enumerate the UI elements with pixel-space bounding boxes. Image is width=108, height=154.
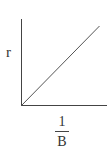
fraction-denominator: B xyxy=(52,135,72,150)
y-axis-label: r xyxy=(6,45,11,60)
proportional-line xyxy=(22,26,100,106)
fraction-numerator: 1 xyxy=(52,115,72,130)
x-axis-label-fraction: 1 B xyxy=(52,115,72,150)
fraction-bar xyxy=(55,131,69,132)
